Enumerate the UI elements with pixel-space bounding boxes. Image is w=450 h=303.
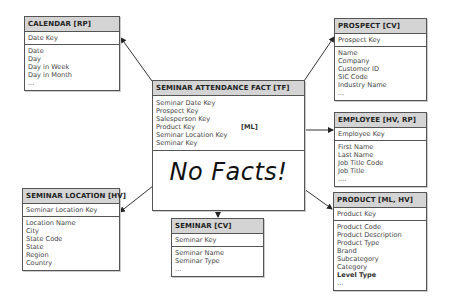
seminar-location-title: SEMINAR LOCATION [HV] xyxy=(23,189,119,204)
attribute: .... xyxy=(338,175,423,183)
attribute: Seminar Name xyxy=(175,249,260,257)
seminar-location-attributes: Location Name City State Code State Regi… xyxy=(23,217,119,270)
attribute: Job Title xyxy=(338,167,423,175)
product-title: PRODUCT [ML, HV] xyxy=(334,193,426,208)
attribute: Day in Month xyxy=(28,71,116,79)
employee-table: EMPLOYEE [HV, RP] Employee Key First Nam… xyxy=(334,112,427,187)
product-key-tag: [ML] xyxy=(241,123,258,131)
seminar-table: SEMINAR [CV] Seminar Key Seminar Name Se… xyxy=(171,218,264,277)
attribute: City xyxy=(26,227,116,235)
attribute: State xyxy=(26,243,116,251)
prospect-table: PROSPECT [CV] Prospect Key Name Company … xyxy=(334,18,427,101)
attribute: ... xyxy=(338,89,423,97)
calendar-key: Date Key xyxy=(25,32,119,45)
attribute: Date xyxy=(28,47,116,55)
attribute: State Code xyxy=(26,235,116,243)
attribute: Company xyxy=(338,57,423,65)
seminar-attributes: Seminar Name Seminar Type ... xyxy=(172,247,263,276)
fact-key: Seminar Key xyxy=(156,139,301,147)
fact-keys: Seminar Date Key Prospect Key Salesperso… xyxy=(153,96,304,151)
product-attributes: Product Code Product Description Product… xyxy=(334,221,426,290)
attribute: Product Code xyxy=(337,223,423,231)
fact-key: Seminar Date Key xyxy=(156,99,301,107)
fact-key: Seminar Location Key xyxy=(156,131,301,139)
attribute: Category xyxy=(337,263,423,271)
calendar-table: CALENDAR [RP] Date Key Date Day Day in W… xyxy=(24,16,120,91)
attribute: Job Title Code xyxy=(338,159,423,167)
prospect-title: PROSPECT [CV] xyxy=(335,19,426,34)
attribute: Day in Week xyxy=(28,63,116,71)
attribute: SIC Code xyxy=(338,73,423,81)
attribute: Day xyxy=(28,55,116,63)
attribute: Product Type xyxy=(337,239,423,247)
employee-attributes: First Name Last Name Job Title Code Job … xyxy=(335,141,426,186)
seminar-location-key: Seminar Location Key xyxy=(23,204,119,217)
employee-key: Employee Key xyxy=(335,128,426,141)
prospect-key: Prospect Key xyxy=(335,34,426,47)
fact-table-title: SEMINAR ATTENDANCE FACT [TF] xyxy=(153,81,304,96)
fact-table: SEMINAR ATTENDANCE FACT [TF] Seminar Dat… xyxy=(152,80,305,211)
employee-title: EMPLOYEE [HV, RP] xyxy=(335,113,426,128)
attribute: Subcategory xyxy=(337,255,423,263)
product-table: PRODUCT [ML, HV] Product Key Product Cod… xyxy=(333,192,427,291)
calendar-title: CALENDAR [RP] xyxy=(25,17,119,32)
attribute: ... xyxy=(337,279,423,287)
product-key: Product Key xyxy=(334,208,426,221)
seminar-key: Seminar Key xyxy=(172,234,263,247)
attribute: Brand xyxy=(337,247,423,255)
attribute: ... xyxy=(175,265,260,273)
attribute: Country xyxy=(26,259,116,267)
no-facts-note: No Facts! xyxy=(153,151,304,186)
seminar-title: SEMINAR [CV] xyxy=(172,219,263,234)
prospect-attributes: Name Company Customer ID SIC Code Indust… xyxy=(335,47,426,100)
attribute: Product Description xyxy=(337,231,423,239)
attribute: Region xyxy=(26,251,116,259)
attribute: Last Name xyxy=(338,151,423,159)
attribute: Customer ID xyxy=(338,65,423,73)
attribute: Seminar Type xyxy=(175,257,260,265)
fact-key: Salesperson Key xyxy=(156,115,301,123)
attribute: Name xyxy=(338,49,423,57)
seminar-location-table: SEMINAR LOCATION [HV] Seminar Location K… xyxy=(22,188,120,271)
fact-key: Prospect Key xyxy=(156,107,301,115)
attribute: Location Name xyxy=(26,219,116,227)
attribute: Industry Name xyxy=(338,81,423,89)
attribute: First Name xyxy=(338,143,423,151)
fact-key: Product Key xyxy=(156,123,301,131)
calendar-attributes: Date Day Day in Week Day in Month ... xyxy=(25,45,119,90)
attribute-level-type: Level Type xyxy=(337,271,423,279)
attribute: ... xyxy=(28,79,116,87)
arrow-to-calendar xyxy=(121,38,152,81)
arrow-to-prospect xyxy=(304,37,334,81)
